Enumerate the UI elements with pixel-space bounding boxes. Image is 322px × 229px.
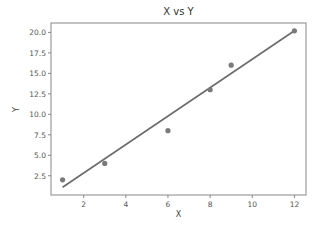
x-tick-label: 8 (208, 200, 213, 209)
y-tick-label: 10.0 (29, 110, 46, 119)
data-point (102, 161, 107, 166)
data-point (292, 28, 297, 33)
x-tick-label: 4 (123, 200, 128, 209)
x-tick-label: 6 (166, 200, 171, 209)
y-tick-label: 7.5 (34, 131, 46, 140)
x-tick-label: 2 (81, 200, 86, 209)
y-tick-label: 20.0 (29, 28, 46, 37)
data-point (208, 87, 213, 92)
x-tick-label: 10 (247, 200, 257, 209)
y-tick-label: 5.0 (34, 151, 46, 160)
data-point (165, 128, 170, 133)
x-tick-label: 12 (290, 200, 300, 209)
scatter-plot: 246810122.55.07.510.012.515.017.520.0 (0, 0, 322, 229)
y-tick-label: 17.5 (29, 49, 46, 58)
data-point (60, 177, 65, 182)
data-point (229, 63, 234, 68)
y-tick-label: 2.5 (34, 172, 46, 181)
y-tick-label: 15.0 (29, 69, 46, 78)
y-tick-label: 12.5 (29, 90, 46, 99)
regression-line (63, 31, 295, 187)
